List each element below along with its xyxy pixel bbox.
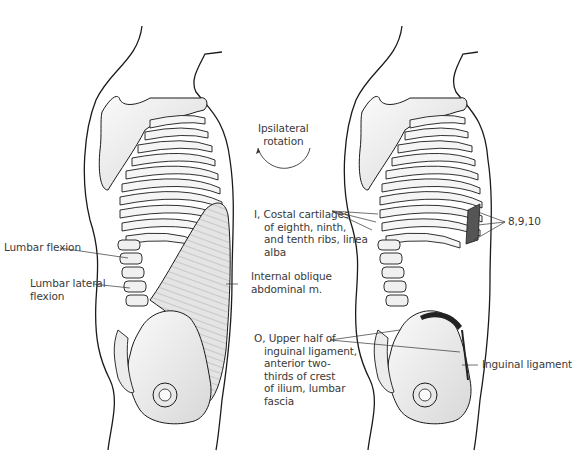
rotation-label: Ipsilateral rotation	[258, 122, 309, 147]
muscle-name-label: Internal oblique abdominal m.	[251, 270, 332, 295]
origin-label: O, Upper half of inguinal ligament, ante…	[254, 332, 357, 407]
lumbar-spine	[118, 240, 148, 306]
lumbar-spine	[378, 240, 408, 306]
left-panel	[84, 26, 233, 450]
ribs-label: 8,9,10	[508, 215, 541, 228]
inguinal-ligament-label: Inguinal ligament	[482, 358, 572, 371]
insertion-label: I, Costal cartilages of eighth, ninth, a…	[254, 208, 368, 258]
lumbar-flexion-label: Lumbar flexion	[4, 241, 81, 254]
rotation-arrow-icon	[258, 148, 310, 168]
lumbar-lateral-flexion-label: Lumbar lateral flexion	[30, 277, 106, 302]
